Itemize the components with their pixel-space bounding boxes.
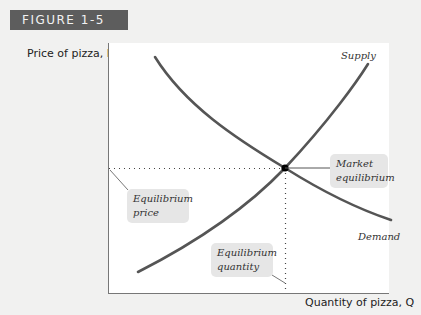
quantity-leader-line — [272, 275, 285, 283]
callout-line: price — [133, 206, 183, 220]
callout-line: Equilibrium — [217, 246, 267, 260]
callout-line: Market — [336, 157, 382, 171]
supply-label: Supply — [341, 50, 376, 61]
market-equilibrium-callout: Market equilibrium — [330, 154, 388, 188]
demand-label: Demand — [358, 231, 400, 242]
equilibrium-price-callout: Equilibrium price — [127, 189, 189, 223]
callout-line: Equilibrium — [133, 192, 183, 206]
price-leader-line — [110, 170, 128, 190]
callout-line: quantity — [217, 260, 267, 274]
callout-line: equilibrium — [336, 171, 382, 185]
equilibrium-quantity-callout: Equilibrium quantity — [211, 243, 273, 277]
x-axis-label: Quantity of pizza, Q — [305, 296, 414, 309]
